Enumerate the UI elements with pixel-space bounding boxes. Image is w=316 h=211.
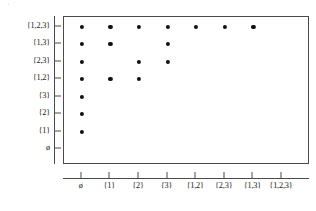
data-point [108, 25, 112, 29]
data-point [165, 42, 169, 46]
data-point [194, 25, 198, 29]
y-tick-label: ø [0, 144, 50, 152]
x-tick-label: ø [79, 182, 83, 190]
data-point [80, 95, 84, 99]
y-tick-label: {1,3} [0, 39, 50, 47]
x-tick-mark [252, 172, 253, 179]
y-tick-mark [54, 60, 61, 61]
data-point [80, 25, 84, 29]
y-tick-label: {3} [0, 92, 50, 100]
y-tick-label: {2} [0, 109, 50, 117]
y-tick-label: {2,3} [0, 57, 50, 65]
x-tick-mark [137, 172, 138, 179]
x-tick-mark [195, 172, 196, 179]
corner-mark: · [7, 2, 9, 9]
x-tick-label: {2} [132, 182, 144, 190]
x-tick-label: {1,2,3} [269, 182, 292, 190]
subset-relation-chart: · {1,2,3}{1,3}{2,3}{1,2}{3}{2}{1}ø ø{1}{… [0, 0, 316, 211]
x-tick-mark [166, 172, 167, 179]
y-tick-label: {1} [0, 127, 50, 135]
y-tick-label: {1,2,3} [0, 21, 50, 29]
data-point [137, 77, 141, 81]
data-point [80, 130, 84, 134]
x-tick-label: {1} [104, 182, 116, 190]
data-point [251, 25, 255, 29]
x-tick-label: {1,2} [186, 182, 203, 190]
x-tick-label: {2,3} [215, 182, 232, 190]
data-point [108, 42, 112, 46]
y-tick-mark [54, 130, 61, 131]
y-tick-mark [54, 78, 61, 79]
y-tick-mark [54, 148, 61, 149]
x-tick-mark [80, 172, 81, 179]
x-tick-mark [109, 172, 110, 179]
plot-frame [63, 16, 309, 164]
data-point [137, 25, 141, 29]
data-point [137, 60, 141, 64]
data-point [223, 25, 227, 29]
data-point [165, 25, 169, 29]
y-axis-line [54, 16, 55, 164]
plot-area [64, 17, 308, 163]
x-tick-label: {1,3} [244, 182, 261, 190]
x-tick-mark [280, 172, 281, 179]
y-tick-mark [54, 113, 61, 114]
y-tick-label: {1,2} [0, 74, 50, 82]
data-point [80, 60, 84, 64]
y-tick-mark [54, 43, 61, 44]
y-tick-mark [54, 25, 61, 26]
x-tick-mark [223, 172, 224, 179]
data-point [165, 60, 169, 64]
data-point [108, 77, 112, 81]
y-tick-mark [54, 95, 61, 96]
x-tick-label: {3} [161, 182, 173, 190]
x-axis-line [63, 178, 309, 179]
data-point [80, 77, 84, 81]
data-point [80, 42, 84, 46]
data-point [80, 112, 84, 116]
